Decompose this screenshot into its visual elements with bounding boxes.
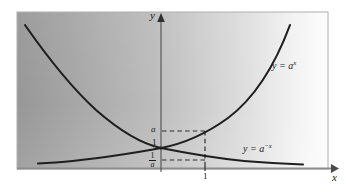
fraction-numerator: 1: [149, 152, 156, 160]
y-tick-label-one: 1: [152, 138, 157, 147]
y-axis-label: y: [150, 10, 155, 21]
x-axis-label: x: [332, 172, 337, 183]
graph-canvas: [0, 0, 346, 192]
curve-label-decreasing-exponent: −x: [264, 142, 272, 149]
curve-label-decreasing: y = a−x: [243, 143, 272, 154]
x-tick-label-one: 1: [203, 172, 208, 181]
curve-label-increasing-exponent: x: [293, 59, 296, 66]
curve-label-increasing-base: y = a: [272, 60, 293, 71]
curve-label-decreasing-base: y = a: [243, 143, 264, 154]
intersection-point: [159, 146, 162, 149]
curve-label-increasing: y = ax: [272, 60, 296, 71]
exponential-functions-figure: y x y = ax y = a−x a 1 1 a 1: [0, 0, 346, 192]
fraction-denominator: a: [149, 161, 156, 169]
y-tick-label-a: a: [151, 125, 156, 134]
y-tick-label-one-over-a: 1 a: [149, 152, 156, 170]
